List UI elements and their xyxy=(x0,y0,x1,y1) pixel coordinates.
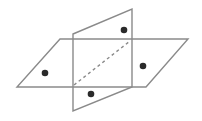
point-right xyxy=(140,63,147,70)
point-top xyxy=(121,27,128,34)
vertical-plane xyxy=(73,9,132,111)
point-left xyxy=(42,70,49,77)
intersection-dashed-line xyxy=(74,41,130,85)
point-bottom xyxy=(88,91,95,98)
two-planes-diagram xyxy=(0,0,202,121)
